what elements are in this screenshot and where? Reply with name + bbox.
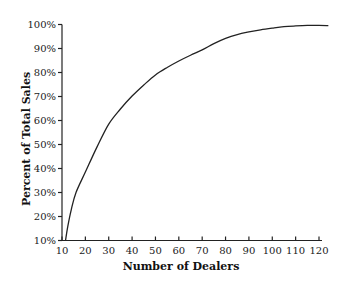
y-tick-label: 80% xyxy=(34,67,56,78)
y-tick-label: 20% xyxy=(34,211,56,222)
x-tick-label: 80 xyxy=(219,245,232,256)
plot-area xyxy=(66,25,329,240)
x-tick-label: 20 xyxy=(79,245,92,256)
x-tick-label: 60 xyxy=(172,245,185,256)
y-tick-label: 90% xyxy=(34,43,56,54)
x-tick-label: 70 xyxy=(196,245,209,256)
x-tick-label: 10 xyxy=(56,245,69,256)
x-tick-label: 120 xyxy=(309,245,328,256)
x-axis-title: Number of Dealers xyxy=(123,260,240,273)
x-tick-label: 100 xyxy=(263,245,282,256)
y-tick-label: 30% xyxy=(34,187,56,198)
y-tick-label: 40% xyxy=(34,163,56,174)
y-tick-label: 10% xyxy=(34,235,56,246)
x-tick-label: 50 xyxy=(149,245,162,256)
sales-curve-line xyxy=(66,25,329,240)
y-tick-label: 70% xyxy=(34,91,56,102)
y-tick-label: 100% xyxy=(27,19,56,30)
y-axis-title: Percent of Total Sales xyxy=(20,72,33,206)
x-tick-label: 40 xyxy=(126,245,139,256)
x-tick-label: 90 xyxy=(243,245,256,256)
chart: 10%20%30%40%50%60%70%80%90%100% 10203040… xyxy=(0,0,343,283)
x-tick-label: 30 xyxy=(102,245,115,256)
x-tick-label: 110 xyxy=(286,245,305,256)
y-tick-label: 50% xyxy=(34,139,56,150)
y-tick-label: 60% xyxy=(34,115,56,126)
x-axis: 102030405060708090100110120 xyxy=(56,237,329,256)
